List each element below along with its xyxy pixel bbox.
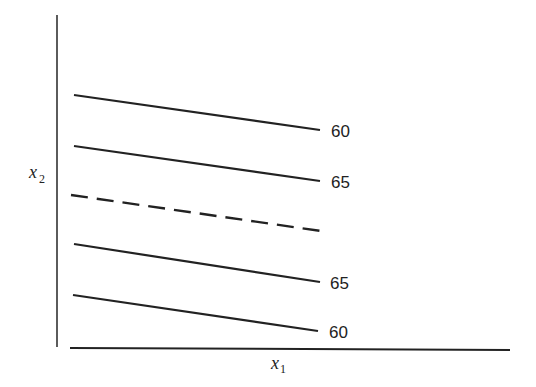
- x-axis-label: x1: [270, 353, 286, 376]
- contour-line-65-bottom: [74, 244, 320, 282]
- contour-diagram: 60 65 65 60 x2 x1: [0, 0, 536, 387]
- x-axis: [70, 348, 510, 350]
- contour-label-65-top: 65: [331, 173, 350, 192]
- contour-label-65-bottom: 65: [330, 274, 349, 293]
- contour-line-65-top: [74, 146, 320, 181]
- contour-line-dashed: [71, 195, 321, 231]
- contour-label-60-bottom: 60: [329, 323, 348, 342]
- contour-label-60-top: 60: [331, 122, 350, 141]
- contour-line-60-top: [74, 95, 320, 130]
- y-axis-label: x2: [28, 162, 45, 186]
- contour-line-60-bottom: [73, 295, 318, 331]
